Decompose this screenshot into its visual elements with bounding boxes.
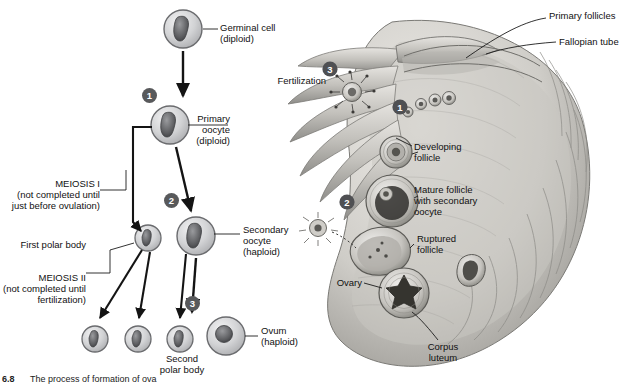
label-primary-follicles: Primary follicles bbox=[549, 10, 616, 21]
figure-oogenesis: 1 2 3 bbox=[0, 0, 635, 388]
label-second-polar-body: Second polar body bbox=[147, 353, 217, 375]
mature-follicle-shape bbox=[366, 175, 418, 227]
oogenesis-cells bbox=[82, 10, 258, 355]
svg-text:2: 2 bbox=[344, 197, 349, 208]
stage-badge-1-left: 1 bbox=[142, 88, 157, 103]
figure-caption: The process of formation of ova bbox=[30, 374, 157, 384]
stage-badge-3-left: 3 bbox=[185, 296, 200, 311]
polar-body-descendant-shape bbox=[125, 326, 151, 352]
label-germinal-cell: Germinal cell (diploid) bbox=[220, 22, 275, 44]
ovum-shape bbox=[207, 317, 245, 355]
label-first-polar-body: First polar body bbox=[2, 239, 86, 250]
stage-badges-right: 1 2 3 bbox=[322, 61, 407, 209]
label-ovum: Ovum (haploid) bbox=[261, 325, 298, 347]
fertilization-site bbox=[329, 70, 375, 113]
label-fertilization: Fertilization bbox=[268, 75, 326, 86]
svg-text:1: 1 bbox=[397, 102, 403, 113]
label-meiosis-ii: MEIOSIS II (not completed until fertiliz… bbox=[0, 272, 86, 305]
label-meiosis-i: MEIOSIS I (not completed until just befo… bbox=[2, 178, 100, 211]
developing-follicle-shape bbox=[380, 136, 412, 168]
corpus-luteum-shape bbox=[379, 268, 429, 318]
stage-badge-2-left: 2 bbox=[164, 193, 179, 208]
label-ruptured-follicle: Ruptured follicle bbox=[417, 233, 456, 255]
germinal-cell-shape bbox=[164, 10, 202, 48]
released-ovum bbox=[299, 212, 338, 246]
ruptured-follicle-shape bbox=[299, 212, 410, 275]
first-polar-body-shape bbox=[135, 225, 161, 251]
label-mature-follicle: Mature follicle with secondary oocyte bbox=[414, 184, 477, 217]
regressing-body-shape bbox=[457, 255, 485, 287]
label-primary-oocyte: Primary oocyte (diploid) bbox=[172, 113, 230, 146]
fimbriae bbox=[288, 48, 410, 220]
secondary-oocyte-shape bbox=[177, 217, 215, 255]
figure-number: 6.8 bbox=[2, 374, 15, 384]
label-ovary: Ovary bbox=[316, 277, 362, 288]
svg-text:3: 3 bbox=[327, 64, 332, 75]
primary-follicles-cluster bbox=[403, 92, 456, 118]
label-fallopian-tube: Fallopian tube bbox=[559, 36, 619, 47]
label-developing-follicle: Developing follicle bbox=[414, 141, 462, 163]
label-corpus-luteum: Corpus luteum bbox=[415, 341, 471, 363]
second-polar-body-shape bbox=[167, 326, 193, 352]
polar-body-descendant-shape bbox=[82, 326, 108, 352]
label-secondary-oocyte: Secondary oocyte (haploid) bbox=[243, 224, 288, 257]
